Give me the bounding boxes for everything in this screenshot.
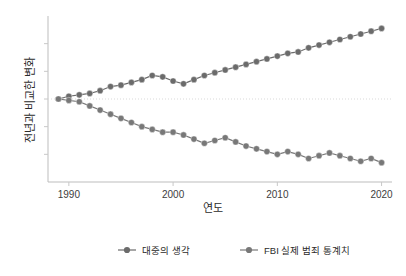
data-point [295, 151, 301, 157]
chart-figure: 1990200020102020 전년과 비교한 변화 연도 대중의 생각FBI… [0, 0, 406, 276]
data-point [358, 31, 364, 37]
x-tick-label: 2000 [162, 189, 185, 200]
data-point [285, 148, 291, 154]
data-point [149, 72, 155, 78]
data-point [128, 79, 134, 85]
data-point [243, 143, 249, 149]
data-point [368, 28, 374, 34]
data-point [118, 115, 124, 121]
data-point [170, 129, 176, 135]
x-tick-label: 2010 [266, 189, 289, 200]
data-point [149, 126, 155, 132]
data-point [97, 107, 103, 113]
data-point [316, 153, 322, 159]
series-1 [55, 96, 384, 166]
data-point [118, 82, 124, 88]
data-point [222, 135, 228, 141]
data-point [107, 83, 113, 89]
data-point [139, 124, 145, 130]
data-point [180, 132, 186, 138]
data-point [368, 155, 374, 161]
series-0 [55, 25, 384, 102]
data-point [306, 155, 312, 161]
data-point [191, 136, 197, 142]
data-point [87, 90, 93, 96]
data-point [347, 34, 353, 40]
data-point [264, 148, 270, 154]
data-point [326, 150, 332, 156]
data-point [358, 158, 364, 164]
data-point [378, 25, 384, 31]
data-point [107, 111, 113, 117]
data-point [295, 49, 301, 55]
data-point [233, 139, 239, 145]
data-point [191, 77, 197, 83]
data-point [201, 72, 207, 78]
data-point [274, 53, 280, 59]
data-point [180, 81, 186, 87]
data-point [201, 140, 207, 146]
x-tick-label: 2020 [370, 189, 393, 200]
data-point [66, 97, 72, 103]
data-point [55, 96, 61, 102]
data-point [160, 129, 166, 135]
data-point [378, 160, 384, 166]
data-point [274, 151, 280, 157]
data-point [316, 42, 322, 48]
data-point [285, 50, 291, 56]
chart-legend: 대중의 생각FBI 실제 범죄 통계치 [118, 245, 350, 256]
data-point [87, 103, 93, 109]
data-point [128, 119, 134, 125]
x-axis-title: 연도 [203, 202, 223, 214]
data-point [347, 155, 353, 161]
data-point [233, 64, 239, 70]
x-tick-label: 1990 [58, 189, 81, 200]
x-axis-tick-labels: 1990200020102020 [58, 189, 393, 200]
data-point [97, 88, 103, 94]
data-point [170, 78, 176, 84]
data-point [76, 92, 82, 98]
data-point [212, 70, 218, 76]
data-point [222, 67, 228, 73]
legend-item-1[interactable]: FBI 실제 범죄 통계치 [240, 245, 350, 256]
data-point [264, 56, 270, 62]
data-point [160, 74, 166, 80]
legend-label: FBI 실제 범죄 통계치 [264, 245, 350, 256]
data-point [243, 61, 249, 67]
data-point [306, 45, 312, 51]
data-point [326, 39, 332, 45]
data-point [139, 77, 145, 83]
data-point [253, 146, 259, 152]
y-axis-ticks [44, 44, 48, 155]
x-axis-ticks [69, 182, 382, 186]
data-point [253, 59, 259, 65]
y-axis-title: 전년과 비교한 변화 [24, 57, 36, 143]
line-chart: 1990200020102020 전년과 비교한 변화 연도 대중의 생각FBI… [0, 0, 406, 276]
data-point [76, 99, 82, 105]
series-layer [55, 25, 384, 165]
data-point [337, 36, 343, 42]
data-point [337, 153, 343, 159]
legend-item-0[interactable]: 대중의 생각 [118, 245, 190, 256]
legend-label: 대중의 생각 [142, 245, 190, 256]
data-point [212, 137, 218, 143]
